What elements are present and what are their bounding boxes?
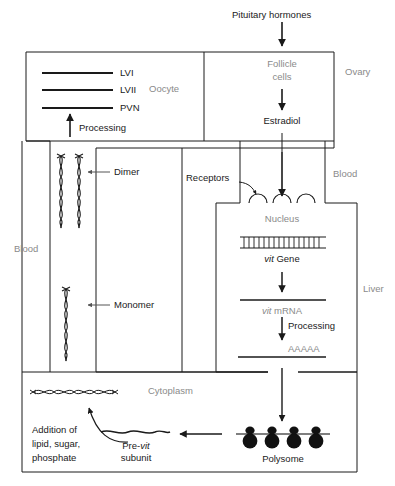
poly-a-tail-label: AAAAA — [288, 343, 320, 355]
addition-label-line2: lipid, sugar, — [32, 438, 80, 450]
pre-vit-italic: vit — [140, 440, 150, 451]
blood-left-label: Blood — [14, 243, 38, 255]
left-blood-channel — [22, 141, 50, 372]
pituitary-hormones-label: Pituitary hormones — [232, 9, 311, 21]
polysome-label: Polysome — [253, 453, 313, 465]
liver-box — [216, 203, 357, 372]
ovary-compartment-label: Ovary — [345, 66, 370, 78]
pvn-label: PVN — [120, 102, 140, 114]
liver-processing-label: Processing — [288, 320, 335, 332]
liver-compartment-label: Liver — [363, 283, 384, 295]
nucleus-compartment-label: Nucleus — [252, 213, 312, 225]
addition-label-line1: Addition of — [32, 424, 77, 436]
cytoplasm-compartment-label: Cytoplasm — [148, 385, 193, 397]
dimer-label: Dimer — [114, 166, 139, 178]
receptors-label: Receptors — [186, 172, 229, 184]
pre-vit-subunit-glyph — [101, 431, 170, 433]
vit-mrna-suffix: mRNA — [271, 305, 302, 316]
vit-gene-label: vit Gene — [248, 253, 316, 265]
modification-arrow — [89, 408, 128, 442]
estradiol-label: Estradiol — [252, 115, 312, 127]
receptors-pointer — [239, 182, 256, 194]
polysome-glyph — [236, 427, 330, 449]
diagram-canvas: Pituitary hormones Follicle cells Estrad… — [0, 0, 395, 486]
vit-gene-glyph — [240, 237, 326, 248]
vitellogenin-chain-glyph — [30, 390, 118, 394]
oocyte-compartment-label: Oocyte — [149, 83, 179, 95]
follicle-cells-label-line1: Follicle — [254, 58, 310, 70]
vit-gene-suffix: Gene — [274, 253, 300, 264]
addition-label-line3: phosphate — [32, 452, 76, 464]
diagram-vector-layer — [0, 0, 395, 486]
pre-vit-prefix: Pre- — [122, 440, 140, 451]
vit-mrna-label: vit mRNA — [246, 305, 318, 317]
oocyte-processing-label: Processing — [79, 122, 126, 134]
monomer-glyph — [62, 287, 70, 361]
vit-mrna-italic: vit — [262, 305, 272, 316]
blood-right-label: Blood — [333, 168, 357, 180]
monomer-label: Monomer — [114, 299, 154, 311]
yolk-protein-bands — [42, 73, 113, 108]
dimer-glyph — [57, 154, 83, 228]
lvi-label: LVI — [120, 67, 134, 79]
pre-vit-subunit-label-line2: subunit — [103, 452, 169, 464]
vit-gene-italic: vit — [264, 253, 274, 264]
follicle-cells-label-line2: cells — [254, 71, 310, 83]
lvii-label: LVII — [120, 84, 136, 96]
pre-vit-subunit-label-line1: Pre-vit — [103, 440, 169, 452]
